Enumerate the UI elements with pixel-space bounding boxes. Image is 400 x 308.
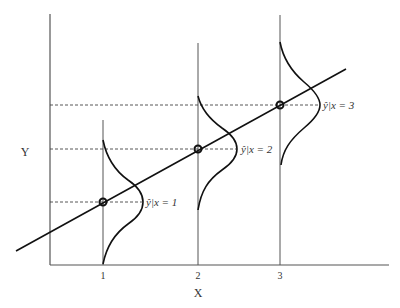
x-tick-labels: 1 2 3 [101,270,283,281]
normal-curves [103,42,320,264]
normal-curve-x3 [280,42,320,165]
conditional-labels: ŷ|x = 1 ŷ|x = 2 ŷ|x = 3 [145,99,355,208]
tick-verticals [103,15,280,265]
x-axis-label: X [194,286,203,300]
label-x2: ŷ|x = 2 [240,143,273,155]
normal-curve-x2 [198,96,237,210]
label-x3: ŷ|x = 3 [322,99,355,111]
x-tick-3: 3 [278,270,283,281]
regression-line [16,69,346,251]
x-tick-1: 1 [101,270,106,281]
label-x1: ŷ|x = 1 [145,196,177,208]
y-axis-label: Y [21,145,30,159]
regression-diagram: ŷ|x = 1 ŷ|x = 2 ŷ|x = 3 1 2 3 X Y [0,0,400,308]
x-tick-2: 2 [196,270,201,281]
